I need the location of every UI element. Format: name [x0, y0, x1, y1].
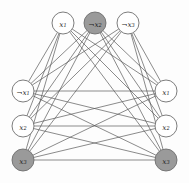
- edge-layer: [26, 29, 163, 160]
- graph-node[interactable]: x3: [155, 149, 177, 171]
- graph-canvas: x1¬x2¬x3x1x2x3x3x2¬x1: [0, 0, 189, 183]
- node-circle-highlighted[interactable]: [84, 12, 106, 34]
- node-circle[interactable]: [52, 12, 74, 34]
- graph-node[interactable]: x2: [12, 115, 34, 137]
- graph-edge: [29, 32, 88, 117]
- graph-node[interactable]: ¬x3: [117, 12, 139, 34]
- graph-edge: [30, 32, 122, 152]
- node-circle[interactable]: [155, 80, 177, 102]
- graph-edge: [28, 33, 90, 151]
- node-circle-highlighted[interactable]: [12, 149, 34, 171]
- graph-edge: [70, 32, 160, 151]
- graph-edge: [32, 29, 119, 85]
- node-circle[interactable]: [12, 80, 34, 102]
- graph-node[interactable]: x3: [12, 149, 34, 171]
- graph-node[interactable]: ¬x2: [84, 12, 106, 34]
- graph-edge: [31, 31, 87, 84]
- graph-edge: [101, 32, 160, 117]
- node-circle[interactable]: [155, 115, 177, 137]
- graph-node[interactable]: x1: [155, 80, 177, 102]
- graph-node[interactable]: x2: [155, 115, 177, 137]
- graph-node[interactable]: ¬x1: [12, 80, 34, 102]
- graph-node[interactable]: x1: [52, 12, 74, 34]
- node-circle[interactable]: [117, 12, 139, 34]
- graph-diagram: x1¬x2¬x3x1x2x3x3x2¬x1: [0, 0, 189, 183]
- graph-edge: [103, 31, 158, 84]
- node-circle[interactable]: [12, 115, 34, 137]
- node-circle-highlighted[interactable]: [155, 149, 177, 171]
- graph-edge: [27, 33, 59, 116]
